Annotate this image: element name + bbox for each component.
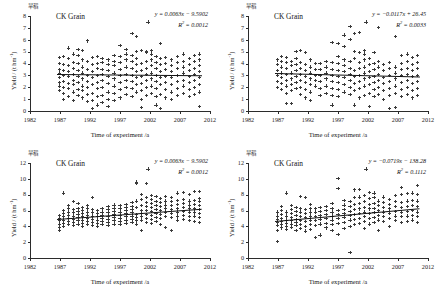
scatter-point — [86, 210, 89, 213]
x-axis-tick-mark — [30, 111, 31, 114]
scatter-point — [112, 219, 115, 222]
y-axis-tick-label: 0 — [226, 255, 244, 261]
scatter-point — [96, 222, 99, 225]
y-axis-tick-label: 6 — [226, 37, 244, 43]
scatter-point — [140, 204, 143, 207]
scatter-point — [280, 55, 283, 58]
scatter-point — [112, 84, 115, 87]
x-axis-tick-mark — [150, 111, 151, 114]
x-axis-tick-mark — [30, 258, 31, 261]
scatter-point — [394, 77, 397, 80]
scatter-point — [58, 222, 61, 225]
scatter-point — [170, 70, 173, 73]
scatter-point — [86, 60, 89, 63]
scatter-point — [124, 206, 127, 209]
scatter-point — [81, 96, 84, 99]
scatter-point — [135, 90, 138, 93]
y-axis-tick-mark — [28, 211, 31, 212]
scatter-point — [118, 217, 121, 220]
scatter-point — [294, 206, 297, 209]
scatter-point — [358, 51, 361, 54]
legend-marker-icon — [146, 167, 149, 170]
scatter-point — [353, 218, 356, 221]
scatter-point — [299, 79, 302, 82]
scatter-point — [290, 212, 293, 215]
scatter-point — [72, 61, 75, 64]
scatter-point — [62, 86, 65, 89]
scatter-point — [67, 95, 70, 98]
x-axis-title: Time of experiment /a — [30, 131, 210, 138]
scatter-point — [58, 81, 61, 84]
scatter-point — [363, 206, 366, 209]
scatter-point — [67, 75, 70, 78]
scatter-point — [164, 56, 167, 59]
scatter-point — [76, 62, 79, 65]
scatter-point — [188, 211, 191, 214]
scatter-point — [299, 49, 302, 52]
scatter-point — [400, 88, 403, 91]
scatter-point — [58, 62, 61, 65]
scatter-point — [304, 51, 307, 54]
scatter-point — [400, 54, 403, 57]
scatter-point — [394, 65, 397, 68]
scatter-point — [140, 69, 143, 72]
scatter-point — [96, 62, 99, 65]
scatter-point — [91, 83, 94, 86]
scatter-point — [188, 95, 191, 98]
scatter-point — [416, 210, 419, 213]
scatter-point — [353, 203, 356, 206]
scatter-point — [280, 82, 283, 85]
y-axis-tick-mark — [246, 163, 249, 164]
y-axis-tick-mark — [246, 87, 249, 88]
y-axis-tick-mark — [246, 28, 249, 29]
scatter-point — [368, 203, 371, 206]
scatter-point — [135, 50, 138, 53]
scatter-point — [135, 83, 138, 86]
scatter-point — [382, 63, 385, 66]
scatter-point — [170, 216, 173, 219]
scatter-point — [81, 84, 84, 87]
scatter-point — [164, 88, 167, 91]
scatter-point — [76, 219, 79, 222]
scatter-point — [193, 67, 196, 70]
scatter-point — [358, 67, 361, 70]
scatter-point — [170, 200, 173, 203]
scatter-point — [353, 50, 356, 53]
scatter-point — [342, 70, 345, 73]
scatter-point — [198, 221, 201, 224]
scatter-point — [406, 220, 409, 223]
scatter-point — [314, 236, 317, 239]
scatter-point — [198, 76, 201, 79]
scatter-point — [276, 86, 279, 89]
y-axis-tick-mark — [28, 75, 31, 76]
scatter-point — [324, 209, 327, 212]
y-axis-title: Yield / (t hm-1) — [9, 198, 17, 236]
scatter-point — [377, 218, 380, 221]
scatter-point — [299, 67, 302, 70]
scatter-point — [348, 86, 351, 89]
scatter-point — [145, 182, 148, 185]
scatter-point — [112, 216, 115, 219]
scatter-point — [394, 71, 397, 74]
scatter-point — [372, 62, 375, 65]
scatter-point — [363, 200, 366, 203]
scatter-point — [124, 203, 127, 206]
scatter-point — [182, 206, 185, 209]
x-axis-tick-label: 1992 — [296, 264, 320, 270]
scatter-point — [150, 92, 153, 95]
x-axis-tick-mark — [278, 258, 279, 261]
scatter-point — [145, 79, 148, 82]
scatter-point — [363, 227, 366, 230]
scatter-point — [388, 212, 391, 215]
scatter-point — [118, 220, 121, 223]
scatter-point — [140, 82, 143, 85]
scatter-point — [67, 57, 70, 60]
scatter-point — [140, 62, 143, 65]
scatter-point — [67, 204, 70, 207]
y-axis-tick-mark — [28, 226, 31, 227]
scatter-point — [150, 198, 153, 201]
scatter-point — [276, 224, 279, 227]
scatter-point — [330, 202, 333, 205]
series-label: CK Grain — [274, 159, 303, 168]
y-axis-tick-mark — [246, 75, 249, 76]
